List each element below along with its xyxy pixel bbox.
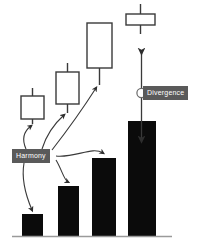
candle-3: [87, 23, 112, 85]
divergence-label[interactable]: Divergence: [143, 86, 188, 100]
candlestick-group: [21, 4, 155, 124]
harmony-to-candle-1: [24, 126, 31, 149]
harmony-label[interactable]: Harmony: [12, 149, 50, 163]
harmony-to-bar-1: [23, 163, 32, 210]
figure-canvas: Harmony Divergence: [0, 0, 198, 250]
candle-4: [126, 4, 155, 34]
harmony-to-bar-2: [56, 160, 68, 182]
chart-figure: [0, 0, 198, 250]
bar-1: [22, 214, 43, 236]
harmony-to-candle-2: [42, 115, 64, 149]
bar-3: [92, 158, 116, 236]
candle-2: [56, 63, 79, 113]
candle-1: [21, 88, 44, 124]
harmony-to-bar-3: [56, 151, 103, 156]
volume-bar-group: [12, 121, 172, 237]
bar-2: [58, 186, 79, 236]
